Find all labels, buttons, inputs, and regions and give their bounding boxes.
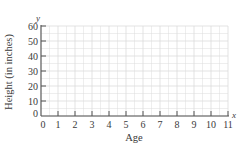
x-tick-label: 9 [192,119,197,130]
y-variable-label: y [35,13,40,23]
y-tick-label: 10 [28,96,38,107]
y-tick-label: 0 [33,108,38,119]
x-tick-label: 7 [158,119,163,130]
x-tick-label: 2 [73,119,78,130]
y-ticks: 0102030405060 [28,21,46,120]
y-tick-label: 50 [28,36,38,47]
x-tick-label: 11 [223,119,233,130]
x-tick-label: 4 [107,119,112,130]
x-ticks: 01234567891011 [41,111,233,130]
x-tick-label: 8 [175,119,180,130]
x-axis-title: Age [125,132,143,143]
x-tick-label: 3 [90,119,95,130]
chart: 01234567891011 0102030405060 Age Height … [0,0,250,148]
x-tick-label: 10 [206,119,216,130]
x-tick-label: 6 [141,119,146,130]
y-tick-label: 20 [28,81,38,92]
grid [41,26,228,116]
y-axis-title: Height (in inches) [3,34,15,110]
x-tick-label: 5 [124,119,129,130]
y-tick-label: 30 [28,66,38,77]
x-variable-label: x [231,110,236,120]
x-tick-label: 1 [56,119,61,130]
axes [41,25,229,116]
x-tick-label: 0 [41,119,46,130]
y-tick-label: 40 [28,51,38,62]
